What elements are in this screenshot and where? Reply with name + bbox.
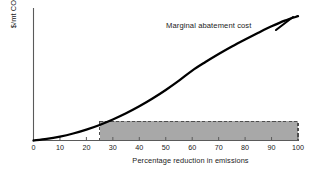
x-axis-tick-label: 40 (135, 143, 143, 152)
shaded-cost-region (100, 121, 298, 140)
chart-figure: $/mt CO2 Marginal abatement cost 0102030… (0, 0, 317, 175)
x-axis-tick-label: 20 (82, 143, 90, 152)
x-axis-tick-label: 100 (292, 143, 304, 152)
x-axis-tick-label: 60 (188, 143, 196, 152)
x-axis-tick-label: 90 (268, 143, 276, 152)
x-axis-tick-label: 50 (162, 143, 170, 152)
x-axis-tick-label: 80 (241, 143, 249, 152)
x-axis-tick-label: 70 (215, 143, 223, 152)
x-axis-tick-label: 10 (56, 143, 64, 152)
x-axis-title: Percentage reduction in emissions (0, 156, 317, 165)
x-axis-tick-label: 30 (109, 143, 117, 152)
curve-annotation-label: Marginal abatement cost (166, 21, 251, 30)
x-axis-tick-label: 0 (32, 143, 36, 152)
